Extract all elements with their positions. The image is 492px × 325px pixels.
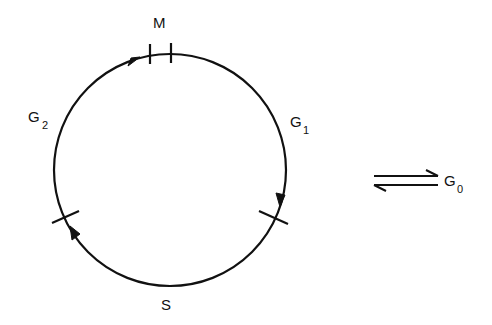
svg-text:0: 0 [457, 183, 463, 195]
arrowhead-s-to-g2-icon [70, 226, 80, 240]
svg-text:G: G [290, 113, 302, 130]
label-s: S [161, 296, 171, 313]
arrowhead-g1-to-s-icon [276, 193, 285, 207]
g0-exchange-arrows-icon [374, 170, 438, 191]
svg-text:G: G [28, 108, 40, 125]
label-g2: G 2 [28, 108, 48, 131]
svg-text:2: 2 [42, 119, 48, 131]
svg-text:G: G [444, 172, 456, 189]
arrowhead-g2-to-m-icon [128, 57, 140, 66]
cell-cycle-diagram: M G 1 G 2 S G 0 [0, 0, 492, 325]
label-g0: G 0 [444, 172, 463, 195]
label-g1: G 1 [290, 113, 309, 136]
label-m: M [153, 14, 166, 31]
svg-text:1: 1 [303, 124, 309, 136]
cycle-circle [54, 54, 286, 286]
